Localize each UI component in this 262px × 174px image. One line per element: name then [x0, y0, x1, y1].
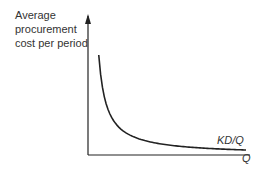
y-axis-label-line: Average — [15, 8, 88, 22]
curve-label: KD/Q — [217, 134, 244, 146]
x-axis-label: Q — [242, 152, 251, 164]
y-axis-label: Average procurement cost per period — [15, 8, 88, 50]
y-axis-label-line: procurement — [15, 22, 88, 36]
y-axis-label-line: cost per period — [15, 36, 88, 50]
